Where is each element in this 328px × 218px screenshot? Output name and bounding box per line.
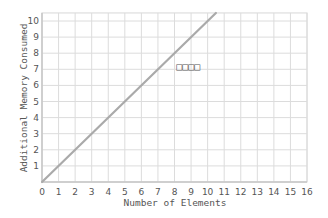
y-tick-label: 10: [28, 16, 40, 26]
y-tick-label: 2: [33, 145, 39, 155]
y-tick-label: 6: [33, 80, 39, 90]
x-tick-label: 10: [202, 187, 214, 197]
line-annotation: □□□□: [176, 61, 200, 72]
x-tick-label: 4: [105, 187, 111, 197]
x-tick-label: 6: [139, 187, 145, 197]
y-tick-label: 8: [33, 48, 39, 58]
x-tick-label: 14: [268, 187, 280, 197]
y-tick-label: 4: [33, 113, 39, 123]
y-tick-label: 9: [33, 32, 39, 42]
x-tick-label: 1: [56, 187, 62, 197]
x-tick-label: 12: [235, 187, 246, 197]
y-tick-label: 7: [33, 64, 39, 74]
x-axis-label: Number of Elements: [124, 197, 227, 208]
x-tick-label: 11: [218, 187, 229, 197]
y-tick-label: 1: [33, 161, 39, 171]
y-axis-ticks: 12345678910: [28, 16, 40, 171]
grid: [42, 13, 307, 182]
annotations: □□□□: [176, 61, 200, 72]
x-tick-label: 5: [122, 187, 128, 197]
x-tick-label: 7: [155, 187, 161, 197]
y-axis-label: Additional Memory Consumed: [18, 24, 29, 173]
x-tick-label: 3: [89, 187, 95, 197]
x-tick-label: 8: [172, 187, 178, 197]
x-tick-label: 9: [188, 187, 194, 197]
y-tick-label: 5: [33, 97, 39, 107]
x-axis-ticks: 012345678910111213141516: [39, 187, 313, 197]
x-tick-label: 0: [39, 187, 45, 197]
x-tick-label: 2: [72, 187, 78, 197]
y-tick-label: 3: [33, 129, 39, 139]
line-chart: 012345678910111213141516 12345678910 Num…: [0, 0, 328, 218]
x-tick-label: 16: [301, 187, 313, 197]
x-tick-label: 15: [285, 187, 296, 197]
x-tick-label: 13: [252, 187, 263, 197]
